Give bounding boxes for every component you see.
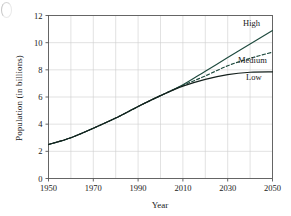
population-projection-figure: 024681012 195019701990201020302050 HighM… <box>0 0 291 216</box>
y-tick-label: 2 <box>38 146 42 156</box>
chart-gridlines <box>49 16 273 179</box>
x-tick-label: 2010 <box>174 183 191 193</box>
x-axis-tick-labels: 195019701990201020302050 <box>40 183 281 193</box>
y-tick-label: 6 <box>38 92 42 102</box>
x-tick-label: 2030 <box>219 183 236 193</box>
y-tick-label: 12 <box>34 11 43 21</box>
y-tick-label: 8 <box>38 65 42 75</box>
x-tick-label: 1950 <box>40 183 57 193</box>
series-label-low: Low <box>246 72 262 82</box>
y-axis-title: Population (in billions) <box>14 23 24 173</box>
population-line-chart: 024681012 195019701990201020302050 HighM… <box>0 0 291 216</box>
series-label-medium: Medium <box>238 55 267 65</box>
y-tick-label: 10 <box>34 38 43 48</box>
x-axis-title: Year <box>48 200 272 210</box>
x-tick-label: 1970 <box>85 183 102 193</box>
chart-tick-marks <box>46 16 273 182</box>
series-label-high: High <box>243 18 261 28</box>
x-tick-label: 2050 <box>264 183 281 193</box>
y-tick-label: 4 <box>38 119 43 129</box>
x-tick-label: 1990 <box>130 183 147 193</box>
y-axis-tick-labels: 024681012 <box>34 11 43 184</box>
